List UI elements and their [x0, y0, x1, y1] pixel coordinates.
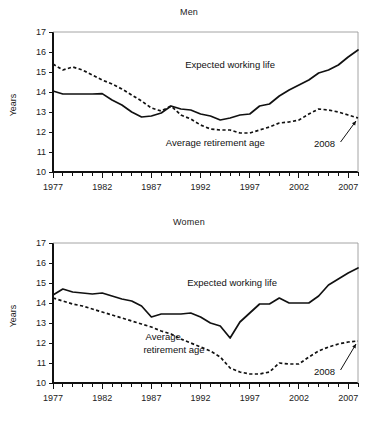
x-tick-label: 1982: [92, 393, 112, 403]
x-tick-label: 1992: [191, 393, 211, 403]
y-tick-label: 16: [36, 47, 46, 57]
x-tick-label: 1997: [240, 393, 260, 403]
axis-lines: [53, 243, 358, 383]
annotation-label: Expected working life: [185, 59, 275, 70]
arrow-head-2008: [352, 121, 356, 126]
x-tick-label: 2007: [338, 182, 358, 192]
y-tick-label: 10: [36, 167, 46, 177]
x-tick-label: 1982: [92, 182, 112, 192]
chart-women: Women Years 1011121314151617197719821987…: [0, 210, 378, 421]
plot-frame: [53, 243, 358, 383]
y-tick-label: 17: [36, 27, 46, 37]
leader-line-2008: [341, 344, 356, 370]
annotation-label: Average: [146, 331, 181, 342]
annotation-label: Average retirement age: [166, 137, 265, 148]
y-tick-label: 12: [36, 127, 46, 137]
x-tick-label: 2007: [338, 393, 358, 403]
x-tick-label: 1977: [43, 393, 63, 403]
y-tick-label: 11: [37, 358, 46, 368]
y-tick-label: 12: [36, 338, 46, 348]
annotation-label: Expected working life: [187, 277, 277, 288]
x-tick-label: 1987: [141, 393, 161, 403]
annotation-label: 2008: [314, 366, 335, 377]
y-tick-label: 13: [36, 107, 46, 117]
x-tick-label: 1987: [141, 182, 161, 192]
x-tick-label: 1997: [240, 182, 260, 192]
y-tick-label: 17: [36, 238, 46, 248]
y-tick-label: 15: [36, 278, 46, 288]
annotation-label: retirement age: [143, 344, 204, 355]
x-tick-label: 1977: [43, 182, 63, 192]
plot-area-women: 1011121314151617197719821987199219972002…: [0, 210, 378, 421]
y-tick-label: 14: [36, 87, 46, 97]
y-tick-label: 13: [36, 318, 46, 328]
series-line-dashed: [53, 298, 358, 374]
axis-lines: [53, 32, 358, 172]
x-tick-label: 2002: [289, 393, 309, 403]
y-tick-label: 16: [36, 258, 46, 268]
plot-area-men: 1011121314151617197719821987199219972002…: [0, 0, 378, 210]
x-tick-label: 2002: [289, 182, 309, 192]
y-tick-label: 15: [36, 67, 46, 77]
y-tick-label: 14: [36, 298, 46, 308]
x-tick-label: 1992: [191, 182, 211, 192]
annotation-label: 2008: [314, 138, 335, 149]
y-tick-label: 10: [36, 378, 46, 388]
plot-frame: [53, 32, 358, 172]
y-tick-label: 11: [37, 147, 46, 157]
chart-men: Men Years 101112131415161719771982198719…: [0, 0, 378, 210]
series-line-dashed: [53, 64, 358, 133]
